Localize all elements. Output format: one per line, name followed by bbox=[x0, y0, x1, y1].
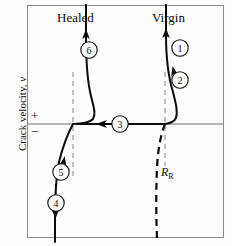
threshold-label-subscript: R bbox=[168, 172, 173, 181]
step-marker-label: 1 bbox=[178, 43, 183, 54]
step-marker-label: 4 bbox=[54, 198, 59, 209]
step-marker-label: 3 bbox=[118, 119, 123, 130]
step-marker-label: 5 bbox=[59, 167, 64, 178]
step-marker-3: 3 bbox=[112, 116, 128, 132]
healed-lower-curve bbox=[55, 124, 73, 242]
step-marker-label: 2 bbox=[178, 75, 183, 86]
step-marker-6: 6 bbox=[81, 42, 97, 58]
step-marker-label: 6 bbox=[87, 45, 92, 56]
threshold-label: RR bbox=[161, 166, 174, 181]
step-marker-1: 1 bbox=[172, 40, 188, 56]
axis-sign-negative: − bbox=[31, 125, 38, 138]
region-label-virgin: Virgin bbox=[152, 11, 185, 24]
step-marker-2: 2 bbox=[172, 72, 188, 88]
region-label-healed: Healed bbox=[57, 11, 94, 24]
step-marker-5: 5 bbox=[53, 164, 69, 180]
figure-canvas: 1 2 3 4 5 6 bbox=[0, 0, 232, 246]
crack-velocity-figure: Crack velocity, v bbox=[0, 0, 232, 246]
axis-sign-positive: + bbox=[31, 109, 38, 122]
step-marker-4: 4 bbox=[48, 195, 64, 211]
